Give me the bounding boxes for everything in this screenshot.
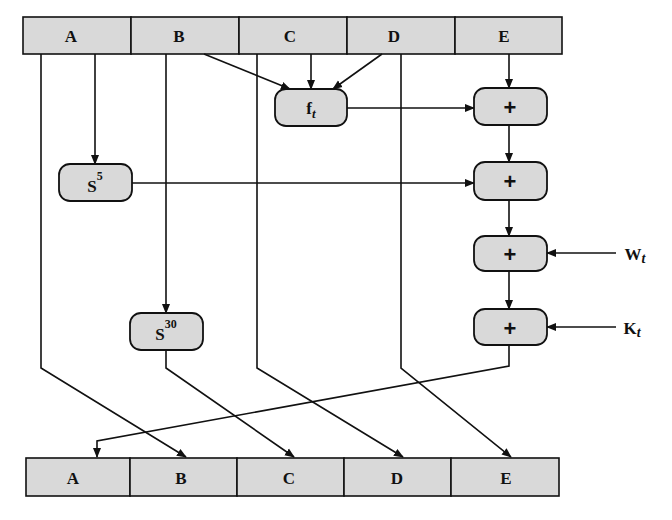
- top-cell-b: [131, 17, 239, 54]
- plus-icon: +: [504, 316, 517, 341]
- top-label-c: C: [284, 27, 296, 46]
- node-ft: ft: [275, 89, 347, 126]
- top-label-a: A: [65, 27, 78, 46]
- top-label-b: B: [173, 27, 184, 46]
- bottom-label-b: B: [175, 469, 186, 488]
- plus-icon: +: [504, 95, 517, 120]
- node-s5: S5: [59, 164, 132, 201]
- node-add1: +: [474, 88, 547, 125]
- edge-b-to-ft: [204, 54, 290, 89]
- sha1-round-diagram: A B C D E: [0, 0, 672, 520]
- plus-icon: +: [504, 242, 517, 267]
- bottom-label-a: A: [67, 469, 80, 488]
- top-label-e: E: [498, 27, 509, 46]
- top-register: A B C D E: [23, 17, 562, 54]
- top-label-d: D: [388, 27, 400, 46]
- bottom-register: A B C D E: [26, 458, 559, 496]
- node-add2: +: [474, 162, 547, 200]
- edge-d-to-ft: [333, 54, 382, 89]
- node-s30: S30: [130, 313, 203, 350]
- edge-s30-to-c-out: [166, 350, 294, 457]
- bottom-label-c: C: [283, 469, 295, 488]
- edge-a-to-b-out: [41, 54, 186, 457]
- bottom-label-e: E: [500, 469, 511, 488]
- node-add3: +: [474, 236, 547, 271]
- input-kt-label: Kt: [623, 319, 641, 340]
- plus-icon: +: [504, 169, 517, 194]
- bottom-label-d: D: [391, 469, 403, 488]
- top-cell-d: [347, 17, 455, 54]
- input-wt-label: Wt: [625, 245, 647, 266]
- node-add4: +: [474, 309, 547, 345]
